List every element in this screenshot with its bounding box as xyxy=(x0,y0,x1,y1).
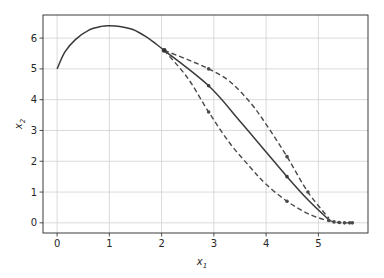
y-axis-label: x2 xyxy=(13,118,27,130)
grid-lines xyxy=(43,15,368,233)
data-marker xyxy=(306,190,310,194)
y-tick-label: 3 xyxy=(31,125,37,136)
x-axis-label: x1 xyxy=(196,256,207,270)
trajectory-chart: 0123450123456 x1 x2 xyxy=(0,0,384,278)
branch-point-marker xyxy=(162,48,167,53)
axis-ticks: 0123450123456 xyxy=(31,33,322,249)
data-marker xyxy=(337,221,341,225)
x-tick-label: 1 xyxy=(106,238,112,249)
y-tick-label: 1 xyxy=(31,187,37,198)
y-tick-label: 4 xyxy=(31,94,37,105)
x-tick-label: 4 xyxy=(263,238,269,249)
data-marker xyxy=(332,220,336,224)
series-middle-branch xyxy=(164,50,329,219)
data-marker xyxy=(285,175,289,179)
data-series xyxy=(57,26,354,225)
data-marker xyxy=(343,221,347,225)
series-upper-branch xyxy=(164,50,329,218)
y-tick-label: 5 xyxy=(31,63,37,74)
series-nominal-trajectory xyxy=(57,26,164,69)
x-tick-label: 0 xyxy=(54,238,60,249)
data-marker xyxy=(285,155,289,159)
x-tick-label: 2 xyxy=(158,238,164,249)
data-marker xyxy=(285,199,289,203)
data-marker xyxy=(327,219,331,223)
y-tick-label: 0 xyxy=(31,217,37,228)
y-tick-label: 6 xyxy=(31,33,37,44)
plot-frame xyxy=(43,15,368,233)
data-marker xyxy=(207,110,211,114)
x-tick-label: 3 xyxy=(211,238,217,249)
data-marker xyxy=(207,67,211,71)
data-marker xyxy=(351,221,355,225)
data-marker xyxy=(207,84,211,88)
x-tick-label: 5 xyxy=(315,238,321,249)
y-tick-label: 2 xyxy=(31,156,37,167)
